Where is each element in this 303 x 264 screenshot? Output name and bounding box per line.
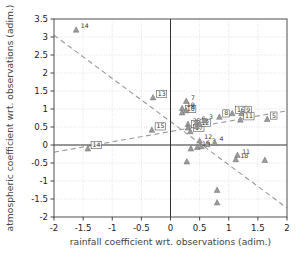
y-tick-label: 2 <box>43 68 48 78</box>
y-tick-label: -1.5 <box>31 194 48 204</box>
x-tick-label: -1.5 <box>75 223 92 233</box>
y-tick-label: 3 <box>43 32 48 42</box>
y-tick-label: -1 <box>39 176 48 186</box>
y-tick-label: 0 <box>43 140 48 150</box>
x-tick-label: -0.5 <box>133 223 150 233</box>
x-axis-title: rainfall coefficient wrt. observations (… <box>70 236 271 247</box>
data-point-label: 5 <box>272 112 276 119</box>
data-point-label: 15 <box>157 122 165 129</box>
y-tick-label: 1 <box>43 104 48 114</box>
chart-container: 1413151410108725217612238169115121963411… <box>0 0 303 264</box>
y-axis-title: atmospheric coefficient wrt. observation… <box>4 5 15 232</box>
data-point-label: 14 <box>92 141 100 148</box>
x-tick-label: 2 <box>284 223 289 233</box>
x-tick-label: -2 <box>50 223 59 233</box>
data-point-label: 3 <box>209 113 213 120</box>
x-tick-label: 0 <box>168 223 173 233</box>
data-point-label: 4 <box>219 135 223 142</box>
scatter-chart: 1413151410108725217612238169115121963411… <box>0 0 303 264</box>
x-tick-label: 1 <box>226 223 231 233</box>
y-tick-label: 0.5 <box>34 122 48 132</box>
y-tick-label: -2 <box>39 212 48 222</box>
x-tick-label: -1 <box>108 223 117 233</box>
data-point-label: 14 <box>81 22 89 29</box>
data-point-label: 11 <box>245 112 253 119</box>
data-point-label: 7 <box>191 94 195 101</box>
data-point-label: 8 <box>224 109 228 116</box>
x-tick-label: 1.5 <box>251 223 265 233</box>
y-tick-label: 1.5 <box>34 86 48 96</box>
data-point-label: 18 <box>240 152 248 159</box>
y-tick-label: 3.5 <box>34 14 48 24</box>
y-tick-label: 2.5 <box>34 50 48 60</box>
data-point-label: 13 <box>158 90 166 97</box>
data-point-label: 8 <box>191 103 195 110</box>
y-tick-label: -0.5 <box>31 158 48 168</box>
x-tick-label: 0.5 <box>193 223 207 233</box>
